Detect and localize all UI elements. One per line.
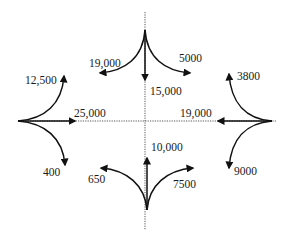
east-right-turn-volume: 3800 (237, 70, 260, 82)
south-left-turn-arrow-icon (101, 168, 147, 210)
south-left-turn-volume: 650 (88, 173, 106, 185)
south-right-turn-volume: 7500 (173, 178, 196, 190)
south-through-volume: 10,000 (151, 141, 183, 154)
south-approach: 10,000 650 7500 (88, 141, 196, 210)
north-left-turn-volume: 5000 (179, 52, 202, 64)
west-through-volume: 25,000 (74, 107, 106, 120)
east-through-volume: 19,000 (180, 107, 212, 120)
east-approach: 19,000 3800 9000 (180, 70, 272, 177)
turning-movement-diagram: 15,000 19,000 5000 25,000 12,500 400 19,… (0, 0, 289, 243)
north-approach: 15,000 19,000 5000 (89, 30, 202, 98)
east-left-turn-volume: 9000 (234, 165, 257, 177)
east-left-turn-arrow-icon (229, 121, 272, 168)
west-approach: 25,000 12,500 400 (18, 74, 106, 178)
west-left-turn-volume: 12,500 (25, 74, 57, 87)
west-right-turn-arrow-icon (18, 121, 65, 165)
west-right-turn-volume: 400 (43, 166, 61, 178)
north-through-volume: 15,000 (150, 85, 182, 98)
north-right-turn-volume: 19,000 (89, 57, 121, 70)
